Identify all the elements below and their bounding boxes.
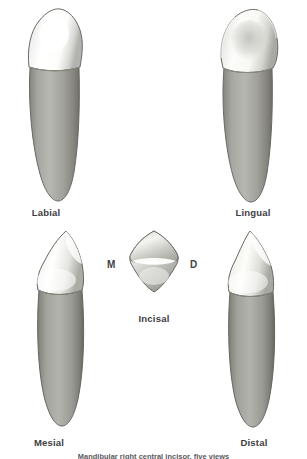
view-label-mesial: Mesial xyxy=(10,437,88,448)
distal-root xyxy=(229,292,275,427)
labial-crown-highlight xyxy=(39,17,69,51)
figure-caption: Mandibular right central incisor, five v… xyxy=(0,453,307,459)
view-label-incisal: Incisal xyxy=(117,313,191,324)
dental-anatomy-figure: Labial xyxy=(0,0,307,459)
distal-cingulum-highlight xyxy=(228,271,268,293)
labial-root xyxy=(29,68,79,201)
tooth-view-lingual xyxy=(207,6,297,211)
incisal-lingual-surface-highlight xyxy=(139,267,169,285)
tooth-view-labial xyxy=(18,6,102,211)
mesial-cingulum-highlight xyxy=(36,269,76,291)
lingual-root xyxy=(223,68,272,202)
tooth-view-incisal xyxy=(123,228,185,298)
orientation-marker-mesial: M xyxy=(107,259,115,270)
incisal-labial-surface xyxy=(130,231,178,262)
lingual-fossa xyxy=(231,20,267,60)
tooth-view-mesial xyxy=(22,228,102,433)
orientation-marker-distal: D xyxy=(190,259,197,270)
tooth-view-distal xyxy=(212,228,294,433)
view-label-labial: Labial xyxy=(10,207,82,218)
view-label-distal: Distal xyxy=(215,437,293,448)
view-label-lingual: Lingual xyxy=(214,207,292,218)
mesial-root xyxy=(38,290,84,426)
